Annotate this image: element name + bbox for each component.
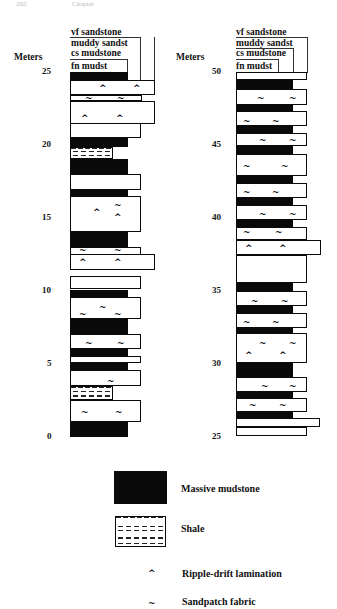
depth-tick-label: 0 bbox=[47, 431, 52, 441]
sandpatch-icon: ~ bbox=[114, 201, 122, 210]
depth-tick-label: 5 bbox=[47, 358, 52, 368]
page-number: 202 bbox=[16, 0, 27, 8]
sandstone-layer: ^^ bbox=[70, 101, 155, 124]
ripple-drift-icon: ^ bbox=[99, 84, 107, 93]
sandstone-layer: ~~ bbox=[236, 89, 307, 105]
depth-tick-label: 50 bbox=[212, 66, 221, 76]
sandstone-layer: ~~~ bbox=[70, 297, 141, 319]
legend-label-sandpatch: Sandpatch fabric bbox=[182, 596, 256, 607]
mudstone-layer bbox=[236, 126, 293, 133]
mudstone-layer bbox=[70, 349, 128, 356]
sandstone-layer: ~~ bbox=[236, 313, 307, 328]
sandstone-layer: ~~ bbox=[236, 205, 307, 220]
depth-tick-label: 45 bbox=[212, 139, 221, 149]
sandpatch-icon: ~ bbox=[243, 188, 251, 197]
ripple-drift-icon: ^ bbox=[114, 213, 122, 222]
sandpatch-icon: ~ bbox=[148, 599, 156, 608]
sandstone-layer bbox=[236, 255, 307, 283]
sandpatch-icon: ~ bbox=[115, 408, 123, 417]
sandpatch-icon: ~ bbox=[261, 382, 269, 391]
sandstone-layer bbox=[70, 276, 141, 289]
depth-tick-label: 30 bbox=[212, 358, 221, 368]
sandpatch-icon: ~ bbox=[281, 162, 289, 171]
sandstone-layer: ~ bbox=[70, 370, 141, 386]
sandpatch-icon: ~ bbox=[249, 401, 257, 410]
legend-swatch-shale bbox=[115, 516, 166, 547]
sandpatch-icon: ~ bbox=[79, 310, 87, 319]
mudstone-layer bbox=[236, 198, 293, 205]
sandstone-layer bbox=[70, 174, 141, 190]
depth-tick-label: 10 bbox=[42, 285, 51, 295]
sandstone-layer: ~~ bbox=[70, 334, 141, 349]
sandpatch-icon: ~ bbox=[281, 297, 289, 306]
sandpatch-icon: ~ bbox=[279, 401, 287, 410]
sandstone-layer: ~~ bbox=[236, 133, 307, 146]
sandpatch-icon: ~ bbox=[259, 210, 267, 219]
mudstone-layer bbox=[70, 138, 128, 147]
sandstone-layer: ~~ bbox=[236, 377, 307, 392]
sandstone-layer: ~~ bbox=[236, 291, 307, 306]
depth-tick-label: 35 bbox=[212, 285, 221, 295]
sandpatch-icon: ~ bbox=[114, 310, 122, 319]
mudstone-layer bbox=[236, 176, 293, 183]
sandpatch-icon: ~ bbox=[259, 339, 267, 348]
sandpatch-icon: ~ bbox=[251, 297, 259, 306]
sandstone-layer: ~~^^ bbox=[236, 333, 307, 363]
sandpatch-icon: ~ bbox=[289, 339, 297, 348]
sandpatch-icon: ~ bbox=[272, 117, 280, 126]
sandpatch-icon: ~ bbox=[243, 318, 251, 327]
shale-layer bbox=[70, 386, 113, 400]
meters-label: Meters bbox=[176, 52, 204, 62]
sandpatch-icon: ~ bbox=[243, 162, 251, 171]
ripple-drift-icon: ^ bbox=[148, 569, 156, 578]
guide-line-fn bbox=[70, 59, 128, 73]
depth-tick-label: 25 bbox=[212, 431, 221, 441]
sandpatch-icon: ~ bbox=[243, 117, 251, 126]
sandpatch-icon: ~ bbox=[117, 339, 125, 348]
sandpatch-icon: ~ bbox=[243, 228, 251, 237]
sandpatch-icon: ~ bbox=[272, 318, 280, 327]
shale-layer bbox=[70, 147, 113, 159]
guide-line-fn bbox=[236, 59, 279, 73]
mudstone-layer bbox=[236, 220, 293, 227]
sandpatch-icon: ~ bbox=[289, 210, 297, 219]
legend-label-ripple-drift: Ripple-drift lamination bbox=[182, 568, 282, 579]
legend-label-massive-mudstone: Massive mudstone bbox=[181, 483, 260, 494]
depth-tick-label: 25 bbox=[42, 66, 51, 76]
ripple-drift-icon: ^ bbox=[245, 244, 253, 253]
sandpatch-icon: ~ bbox=[289, 94, 297, 103]
sandpatch-icon: ~ bbox=[289, 382, 297, 391]
mudstone-layer bbox=[70, 290, 128, 297]
depth-tick-label: 40 bbox=[212, 212, 221, 222]
mudstone-layer bbox=[70, 159, 128, 175]
sandstone-layer bbox=[236, 427, 307, 436]
sandstone-layer: ~~ bbox=[236, 398, 307, 412]
sandpatch-icon: ~ bbox=[99, 303, 107, 312]
sandstone-layer bbox=[236, 418, 320, 427]
sandpatch-icon: ~ bbox=[259, 136, 267, 145]
sandpatch-icon: ~ bbox=[107, 377, 115, 386]
mudstone-layer bbox=[70, 422, 128, 437]
sandstone-layer: ~~ bbox=[236, 227, 307, 240]
sandstone-layer: ~~ bbox=[70, 400, 141, 422]
ripple-drift-icon: ^ bbox=[279, 351, 287, 360]
ripple-drift-icon: ^ bbox=[245, 351, 253, 360]
sandpatch-icon: ~ bbox=[257, 94, 265, 103]
sandstone-layer: ~~ bbox=[236, 154, 307, 176]
ripple-drift-icon: ^ bbox=[114, 258, 122, 267]
sandstone-layer: ^^ bbox=[70, 254, 155, 270]
running-title: Chapter bbox=[72, 0, 94, 8]
sandpatch-icon: ~ bbox=[289, 136, 297, 145]
ripple-drift-icon: ^ bbox=[279, 244, 287, 253]
depth-tick-label: 20 bbox=[42, 139, 51, 149]
mudstone-layer bbox=[70, 319, 128, 334]
ripple-drift-icon: ^ bbox=[79, 258, 87, 267]
sandstone-layer bbox=[236, 72, 307, 80]
mudstone-layer bbox=[236, 283, 293, 291]
legend-label-shale: Shale bbox=[181, 523, 204, 534]
sandstone-layer: ~~ bbox=[236, 111, 307, 126]
sandpatch-icon: ~ bbox=[272, 188, 280, 197]
mudstone-layer bbox=[236, 80, 293, 89]
sandstone-layer bbox=[70, 123, 141, 138]
ripple-drift-icon: ^ bbox=[93, 208, 101, 217]
